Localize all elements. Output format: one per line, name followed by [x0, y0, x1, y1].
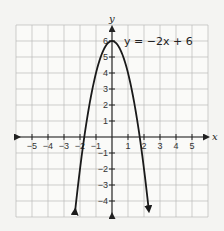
- y-tick-label: 1: [103, 116, 108, 126]
- y-tick-label: −3: [98, 180, 108, 190]
- x-tick-label: 4: [173, 141, 178, 151]
- y-tick-label: 5: [103, 52, 108, 62]
- y-tick-label: 2: [103, 100, 108, 110]
- x-axis-label: x: [212, 131, 218, 142]
- y-tick-label: −4: [98, 196, 108, 206]
- x-tick-label: 3: [157, 141, 162, 151]
- x-tick-label: 5: [189, 141, 194, 151]
- coordinate-plane: −5−4−3−2−112345−4−3−2−1123456 x y y = −2…: [0, 0, 224, 231]
- y-tick-label: −1: [98, 148, 108, 158]
- x-tick-label: 1: [125, 141, 130, 151]
- x-tick-label: −5: [27, 141, 37, 151]
- x-tick-label: −3: [59, 141, 69, 151]
- equation-label: y = −2x + 6: [124, 35, 193, 48]
- y-axis-label: y: [108, 13, 115, 24]
- y-tick-label: −2: [98, 164, 108, 174]
- y-tick-label: 4: [103, 68, 108, 78]
- y-tick-label: 3: [103, 84, 108, 94]
- x-tick-label: −4: [43, 141, 53, 151]
